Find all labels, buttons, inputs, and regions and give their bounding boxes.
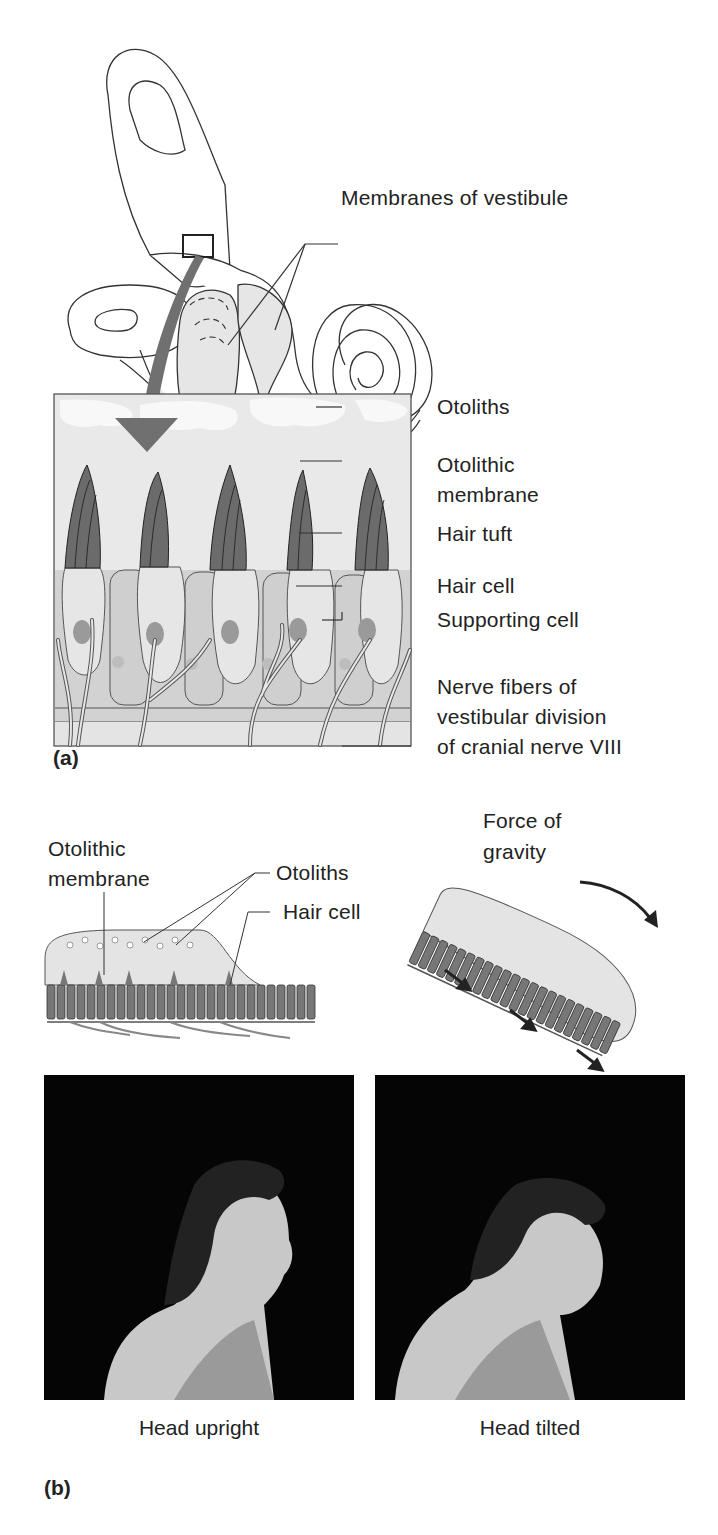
label-nerve-fibers-line3: of cranial nerve VIII (437, 734, 622, 759)
label-b-otolithic-membrane-line2: membrane (48, 866, 150, 891)
label-nerve-fibers-line1: Nerve fibers of (437, 674, 577, 699)
label-b-otoliths: Otoliths (276, 860, 349, 885)
photo-head-upright (44, 1075, 354, 1400)
label-force-of-gravity-line1: Force of (483, 808, 562, 833)
label-nerve-fibers-line2: vestibular division (437, 704, 607, 729)
label-otoliths: Otoliths (437, 394, 510, 419)
label-force-of-gravity-line2: gravity (483, 839, 546, 864)
head-upright-silhouette (44, 1075, 354, 1400)
label-otolithic-membrane-line2: membrane (437, 482, 539, 507)
caption-head-tilted: Head tilted (375, 1416, 685, 1440)
caption-head-upright: Head upright (44, 1416, 354, 1440)
label-hair-cell: Hair cell (437, 573, 515, 598)
label-b-otolithic-membrane-line1: Otolithic (48, 836, 126, 861)
label-otolithic-membrane-line1: Otolithic (437, 452, 515, 477)
label-supporting-cell: Supporting cell (437, 607, 579, 632)
inner-ear-diagram (0, 0, 718, 800)
label-hair-tuft: Hair tuft (437, 521, 512, 546)
panel-label-a: (a) (53, 746, 79, 770)
label-membranes-of-vestibule: Membranes of vestibule (341, 185, 568, 210)
label-b-hair-cell: Hair cell (283, 899, 361, 924)
head-tilted-silhouette (375, 1075, 685, 1400)
photo-head-tilted (375, 1075, 685, 1400)
panel-label-b: (b) (44, 1476, 71, 1500)
